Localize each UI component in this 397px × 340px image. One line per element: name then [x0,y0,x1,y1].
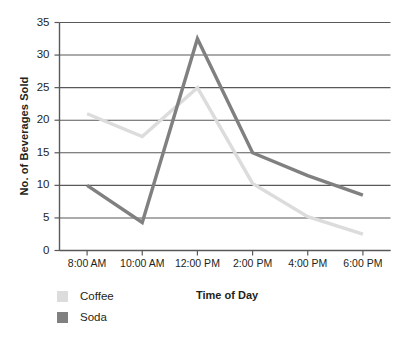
legend-label: Soda [80,312,107,324]
x-tick-label: 2:00 PM [233,258,272,269]
x-tick-label: 6:00 PM [343,258,382,269]
x-tick-label: 8:00 AM [68,258,107,269]
legend-item: Coffee [57,286,114,307]
y-tick-label: 30 [16,49,50,61]
y-tick-label: 0 [16,245,50,257]
x-tick-label: 4:00 PM [288,258,327,269]
legend-label: Coffee [80,291,114,303]
y-tick-label: 35 [16,17,50,29]
x-axis-title: Time of Day [196,289,258,301]
chart-legend: CoffeeSoda [57,286,114,328]
y-tick-label: 25 [16,82,50,94]
legend-swatch-icon [57,291,68,302]
y-tick-label: 10 [16,179,50,191]
y-tick-label: 20 [16,114,50,126]
y-tick-label: 5 [16,212,50,224]
legend-item: Soda [57,307,114,328]
y-tick-label: 15 [16,147,50,159]
line-chart: No. of Beverages Sold 05101520253035 8:0… [0,0,397,340]
legend-swatch-icon [57,312,68,323]
x-tick-label: 12:00 PM [175,258,220,269]
x-tick-label: 10:00 AM [120,258,164,269]
